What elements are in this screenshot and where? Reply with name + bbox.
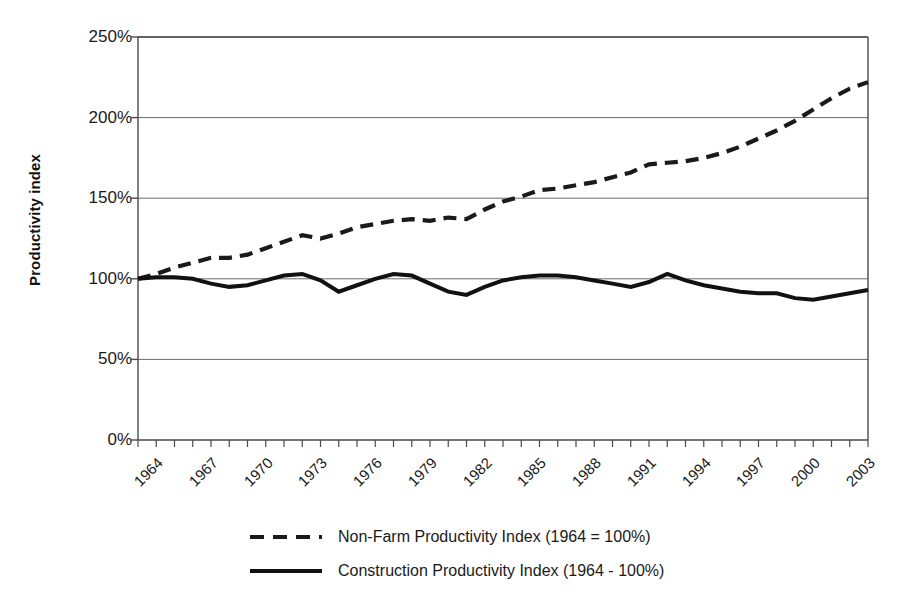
series-line-non-farm [138,82,868,279]
productivity-index-chart: Productivity index 0%50%100%150%200%250%… [0,0,901,612]
legend-entry-non-farm: Non-Farm Productivity Index (1964 = 100%… [0,520,901,554]
legend-swatch-dashed-icon [248,530,324,544]
legend-swatch-solid-icon [248,564,324,578]
chart-legend: Non-Farm Productivity Index (1964 = 100%… [0,520,901,588]
series-line-construction [138,274,868,300]
legend-label-construction: Construction Productivity Index (1964 - … [338,562,664,580]
legend-label-non-farm: Non-Farm Productivity Index (1964 = 100%… [338,528,651,546]
legend-entry-construction: Construction Productivity Index (1964 - … [0,554,901,588]
